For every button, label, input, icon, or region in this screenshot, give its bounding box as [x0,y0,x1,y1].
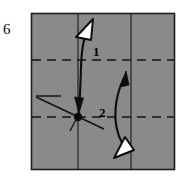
fold-pivot-dot [74,113,82,121]
arrow-1-number: 1 [93,44,100,59]
arrow-2-number: 2 [99,105,106,120]
paper-texture [32,14,175,170]
figure-root: 6 1 [0,0,183,177]
origami-diagram: 1 2 [0,0,183,177]
